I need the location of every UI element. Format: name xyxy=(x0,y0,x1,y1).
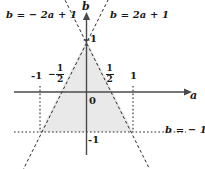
tick-label-a-one-half: 1 2 xyxy=(105,64,114,84)
tick-label-a-minus-one-half: − 1 2 xyxy=(48,64,64,84)
y-axis-label: b xyxy=(82,1,90,12)
minus-sign-glyph: − xyxy=(48,70,56,79)
equation-label-left-line: b = − 2a + 1 xyxy=(6,10,77,20)
fraction-stack: 1 2 xyxy=(106,64,114,84)
equation-label-right-line: b = 2a + 1 xyxy=(110,10,169,20)
fraction-denominator: 2 xyxy=(106,75,114,84)
tick-label-b-one: 1 xyxy=(90,34,97,44)
fraction-denominator: 2 xyxy=(56,75,64,84)
x-axis-label: a xyxy=(190,90,197,101)
plot-canvas xyxy=(0,0,205,169)
fraction-stack: 1 2 xyxy=(56,64,64,84)
fraction-numerator: 1 xyxy=(56,64,64,73)
tick-label-a-minus-one: -1 xyxy=(31,71,42,81)
equation-label-bottom-line: b = − 1 xyxy=(165,125,205,135)
origin-label: 0 xyxy=(89,96,96,106)
y-axis-arrowhead xyxy=(83,12,90,20)
tick-label-a-one: 1 xyxy=(130,71,137,81)
fraction-numerator: 1 xyxy=(106,64,114,73)
coordinate-plane-figure: b a b = − 2a + 1 b = 2a + 1 b = − 1 0 1 … xyxy=(0,0,205,169)
tick-label-b-minus-one: -1 xyxy=(88,135,99,145)
